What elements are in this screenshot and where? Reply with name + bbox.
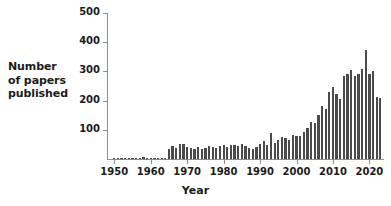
bar (212, 147, 214, 159)
bar (274, 143, 276, 159)
bar (157, 158, 159, 159)
bar (168, 149, 170, 159)
bar (146, 158, 148, 159)
bar (281, 137, 283, 159)
bar (219, 146, 221, 159)
x-axis-tick-mark (114, 160, 115, 164)
y-axis-tick-label: 200 (79, 94, 100, 105)
bar (215, 148, 217, 159)
bar (325, 109, 327, 159)
bar (328, 92, 330, 159)
bar (277, 140, 279, 159)
y-axis-tick-mark (103, 13, 108, 14)
y-axis-tick-label: 100 (79, 123, 100, 134)
bar (379, 98, 381, 159)
bar (343, 76, 345, 159)
x-axis-tick-label: 1990 (246, 166, 274, 177)
bar (175, 148, 177, 159)
bar (171, 146, 173, 159)
x-axis-tick-mark (297, 160, 298, 164)
bar (241, 144, 243, 159)
bar (270, 133, 272, 159)
x-axis-tick-mark (224, 160, 225, 164)
x-axis-tick-mark (369, 160, 370, 164)
bar (135, 158, 137, 159)
bar (142, 157, 144, 159)
x-axis-tick-mark (187, 160, 188, 164)
bar (306, 128, 308, 159)
x-axis-tick-label: 1970 (173, 166, 201, 177)
bar (161, 158, 163, 159)
bar (321, 106, 323, 159)
bar (131, 158, 133, 159)
x-axis-tick-label: 1980 (210, 166, 238, 177)
bar (233, 145, 235, 159)
bar (314, 123, 316, 160)
bar (124, 158, 126, 159)
bar (354, 76, 356, 159)
y-axis-title: Number of papers published (8, 60, 84, 101)
plot-area: 100200300400500 195019601970198019902000… (107, 13, 384, 160)
bar (357, 74, 359, 159)
bar (332, 87, 334, 159)
bar (284, 138, 286, 159)
bar (208, 146, 210, 159)
bar (182, 144, 184, 159)
bar (197, 147, 199, 159)
y-axis-title-line-2: of papers (8, 74, 84, 88)
x-axis-tick-mark (151, 160, 152, 164)
y-axis-tick-label: 400 (79, 35, 100, 46)
x-axis-tick-label: 2020 (355, 166, 383, 177)
bar (372, 71, 374, 159)
x-axis-line (107, 159, 384, 160)
bar (303, 132, 305, 159)
bar (255, 147, 257, 159)
bar (252, 149, 254, 159)
bar (295, 136, 297, 159)
bar (368, 74, 370, 159)
bar (193, 149, 195, 159)
bar (244, 146, 246, 159)
bar (376, 97, 378, 159)
bar (179, 144, 181, 159)
bar (186, 147, 188, 159)
bar (226, 147, 228, 159)
bar (164, 158, 166, 159)
bar (263, 141, 265, 159)
bar (237, 146, 239, 159)
bar (139, 158, 141, 159)
bar (365, 50, 367, 160)
bar (266, 145, 268, 159)
bar (150, 158, 152, 159)
bar (201, 149, 203, 159)
bar (120, 158, 122, 159)
y-axis-title-line-1: Number (8, 60, 84, 74)
bar (361, 69, 363, 159)
y-axis-tick-label: 500 (79, 6, 100, 17)
bar (204, 148, 206, 159)
bar (288, 140, 290, 159)
y-axis-tick-mark (103, 42, 108, 43)
x-axis-tick-label: 1950 (100, 166, 128, 177)
x-axis-title: Year (0, 184, 391, 197)
bar (113, 158, 115, 159)
bar (223, 145, 225, 159)
x-axis-tick-mark (260, 160, 261, 164)
bar (350, 70, 352, 159)
y-axis-tick-mark (103, 101, 108, 102)
y-axis-line (107, 13, 108, 160)
x-axis-tick-mark (333, 160, 334, 164)
y-axis-tick-mark (103, 71, 108, 72)
bar (259, 144, 261, 159)
y-axis-tick-label: 300 (79, 64, 100, 75)
bar (190, 148, 192, 159)
x-axis-tick-label: 2010 (319, 166, 347, 177)
y-axis-title-line-3: published (8, 87, 84, 101)
bar (128, 158, 130, 159)
bar (230, 145, 232, 159)
y-axis-tick-mark (103, 130, 108, 131)
bar (346, 74, 348, 159)
bar (117, 158, 119, 159)
bar (153, 158, 155, 159)
x-axis-tick-label: 1960 (137, 166, 165, 177)
